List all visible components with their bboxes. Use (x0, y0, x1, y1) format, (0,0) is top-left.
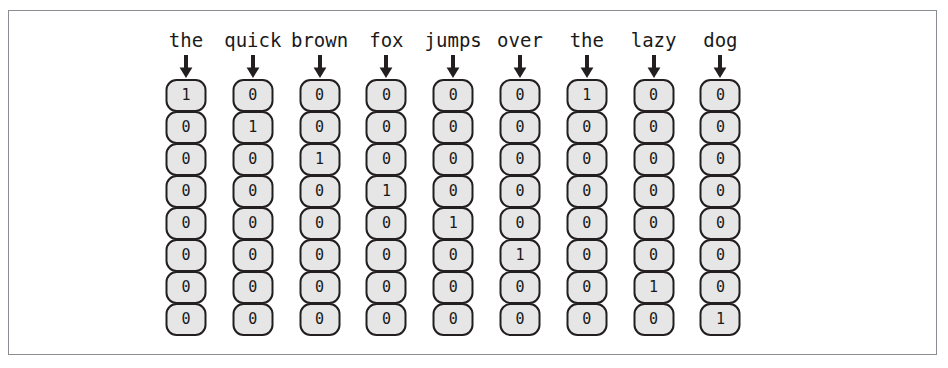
cell-stack: 00000001 (700, 79, 741, 335)
cell-value: 0 (248, 280, 257, 295)
encoding-cell: 0 (566, 175, 607, 208)
encoding-cell: 1 (700, 303, 741, 336)
encoding-cell: 0 (700, 143, 741, 176)
encoding-cell: 0 (299, 303, 340, 336)
encoding-cell: 0 (500, 79, 541, 112)
cell-value: 0 (315, 184, 324, 199)
cell-stack: 10000000 (566, 79, 607, 335)
cell-value: 0 (649, 216, 658, 231)
encoding-cell: 0 (500, 175, 541, 208)
cell-value: 0 (382, 152, 391, 167)
cell-value: 0 (315, 216, 324, 231)
encoding-cell: 0 (633, 239, 674, 272)
cell-value: 0 (181, 216, 190, 231)
encoding-cell: 0 (700, 79, 741, 112)
cell-value: 1 (248, 120, 257, 135)
encoding-cell: 0 (299, 79, 340, 112)
cell-value: 0 (248, 184, 257, 199)
cell-value: 0 (716, 184, 725, 199)
cell-value: 0 (449, 248, 458, 263)
encoding-cell: 0 (700, 207, 741, 240)
cell-value: 0 (649, 312, 658, 327)
cell-value: 1 (382, 184, 391, 199)
cell-value: 0 (315, 280, 324, 295)
word-label: lazy (631, 29, 677, 51)
encoding-cell: 0 (366, 79, 407, 112)
cell-value: 0 (248, 88, 257, 103)
encoding-cell: 0 (433, 271, 474, 304)
down-arrow-icon (647, 55, 661, 79)
cell-stack: 00000100 (500, 79, 541, 335)
cell-value: 0 (181, 312, 190, 327)
word-label: dog (703, 29, 737, 51)
encoding-cell: 1 (232, 111, 273, 144)
encoding-cell: 0 (500, 303, 541, 336)
encoding-cell: 0 (166, 207, 207, 240)
cell-value: 0 (515, 88, 524, 103)
cell-value: 0 (449, 152, 458, 167)
cell-value: 0 (649, 184, 658, 199)
cell-value: 0 (649, 120, 658, 135)
cell-value: 0 (649, 88, 658, 103)
encoding-cell: 0 (299, 271, 340, 304)
encoding-cell: 0 (366, 239, 407, 272)
cell-value: 0 (248, 312, 257, 327)
encoding-cell: 1 (566, 79, 607, 112)
encoding-cell: 0 (633, 175, 674, 208)
down-arrow-icon (179, 55, 193, 79)
encoding-cell: 0 (366, 143, 407, 176)
encoding-cell: 0 (232, 303, 273, 336)
word-label: brown (291, 29, 348, 51)
encoding-cell: 0 (566, 303, 607, 336)
encoding-cell: 0 (700, 239, 741, 272)
cell-stack: 00010000 (366, 79, 407, 335)
encoding-cell: 1 (433, 207, 474, 240)
encoding-cell: 0 (299, 175, 340, 208)
down-arrow-icon (513, 55, 527, 79)
cell-value: 0 (582, 248, 591, 263)
encoding-cell: 0 (166, 175, 207, 208)
cell-value: 0 (449, 312, 458, 327)
encoding-cell: 0 (633, 79, 674, 112)
cell-value: 0 (515, 120, 524, 135)
cell-value: 0 (382, 216, 391, 231)
cell-value: 0 (582, 152, 591, 167)
encoding-cell: 0 (366, 303, 407, 336)
cell-value: 0 (449, 184, 458, 199)
cell-value: 0 (382, 280, 391, 295)
cell-value: 0 (382, 248, 391, 263)
cell-stack: 00100000 (299, 79, 340, 335)
encoding-cell: 0 (232, 143, 273, 176)
cell-value: 0 (515, 216, 524, 231)
encoding-cell: 1 (366, 175, 407, 208)
cell-value: 0 (515, 152, 524, 167)
encoding-cell: 0 (500, 207, 541, 240)
cell-value: 0 (515, 280, 524, 295)
cell-value: 1 (582, 88, 591, 103)
encoding-cell: 1 (299, 143, 340, 176)
cell-stack: 01000000 (232, 79, 273, 335)
cell-value: 0 (582, 216, 591, 231)
encoding-cell: 0 (166, 143, 207, 176)
cell-value: 0 (315, 312, 324, 327)
cell-value: 0 (515, 312, 524, 327)
encoding-cell: 0 (500, 143, 541, 176)
down-arrow-icon (713, 55, 727, 79)
encoding-cell: 0 (633, 111, 674, 144)
encoding-cell: 1 (166, 79, 207, 112)
cell-value: 1 (315, 152, 324, 167)
encoding-cell: 0 (566, 143, 607, 176)
encoding-cell: 0 (166, 303, 207, 336)
encoding-cell: 0 (232, 175, 273, 208)
figure-frame: the10000000quick01000000brown00100000fox… (8, 10, 937, 355)
cell-value: 0 (248, 248, 257, 263)
cell-value: 1 (716, 312, 725, 327)
encoding-cell: 0 (500, 271, 541, 304)
encoding-cell: 0 (500, 111, 541, 144)
cell-value: 0 (449, 120, 458, 135)
cell-value: 0 (716, 120, 725, 135)
encoding-cell: 0 (166, 271, 207, 304)
cell-value: 0 (315, 248, 324, 263)
down-arrow-icon (379, 55, 393, 79)
cell-value: 0 (716, 216, 725, 231)
